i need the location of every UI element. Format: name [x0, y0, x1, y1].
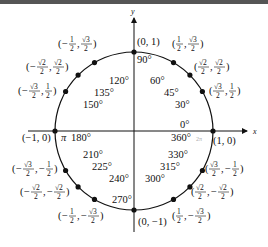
svg-text:): ) — [100, 210, 104, 222]
svg-text:√2: √2 — [196, 183, 204, 192]
svg-text:1: 1 — [70, 207, 74, 216]
svg-text:2: 2 — [212, 169, 216, 178]
angle-120: 120° — [109, 75, 129, 86]
coord-90: (0, 1) — [137, 36, 160, 48]
svg-text:,: , — [184, 210, 187, 221]
svg-text:1: 1 — [233, 160, 237, 169]
svg-text:1: 1 — [46, 82, 50, 91]
coord-210: ( − √3 2 , − 1 2 ) — [12, 160, 58, 178]
coord-315: ( √2 2 , − √2 2 ) — [191, 183, 234, 201]
svg-text:,: , — [221, 163, 224, 174]
coord-225: ( − √2 2 , − √2 2 ) — [20, 183, 70, 201]
svg-text:(: ( — [191, 186, 195, 198]
svg-text:√2: √2 — [32, 183, 40, 192]
svg-text:√3: √3 — [30, 82, 38, 91]
svg-text:2: 2 — [84, 44, 88, 53]
svg-text:1: 1 — [70, 35, 74, 44]
svg-text:,: , — [210, 61, 213, 72]
svg-text:,: , — [77, 38, 80, 49]
coord-330: ( √3 2 , − 1 2 ) — [205, 160, 244, 178]
coord-300: ( 1 2 , − √3 2 ) — [172, 207, 211, 225]
x-axis-label: x — [252, 127, 257, 136]
svg-text:−: − — [211, 186, 217, 197]
svg-text:√2: √2 — [199, 58, 207, 67]
svg-text:2: 2 — [47, 169, 51, 178]
coord-180: (−1, 0) — [22, 132, 51, 144]
svg-text:2: 2 — [57, 192, 61, 201]
svg-text:2: 2 — [56, 67, 60, 76]
angle-90: 90° — [137, 54, 152, 65]
coord-135: ( − √2 2 , √2 2 ) — [26, 58, 69, 76]
svg-text:2: 2 — [32, 91, 36, 100]
svg-text:): ) — [226, 61, 230, 73]
coord-120: ( − 1 2 , √3 2 ) — [58, 35, 97, 53]
coord-0: (1, 0) — [213, 135, 236, 147]
svg-text:,: , — [43, 186, 46, 197]
angle-60: 60° — [150, 75, 165, 86]
svg-text:−: − — [225, 163, 231, 174]
svg-text:2: 2 — [46, 91, 50, 100]
angle-0: 0° — [180, 119, 189, 130]
svg-text:,: , — [77, 210, 80, 221]
svg-text:2: 2 — [233, 169, 237, 178]
unit-circle-diagram: x y 0° 360° 2π 30° 45° 60° 90° 120° 135°… — [0, 0, 268, 247]
coord-30: ( √3 2 , 1 2 ) — [209, 82, 241, 100]
svg-text:(: ( — [209, 85, 213, 97]
svg-text:2: 2 — [216, 91, 220, 100]
svg-text:): ) — [200, 38, 204, 50]
svg-text:,: , — [35, 163, 38, 174]
svg-text:2: 2 — [70, 216, 74, 225]
angle-240: 240° — [109, 173, 129, 184]
svg-text:√3: √3 — [24, 160, 32, 169]
angle-135: 135° — [94, 87, 114, 98]
svg-text:√2: √2 — [215, 58, 223, 67]
svg-text:2: 2 — [40, 67, 44, 76]
svg-text:,: , — [41, 85, 44, 96]
svg-text:2: 2 — [91, 216, 95, 225]
svg-text:(: ( — [172, 210, 176, 222]
svg-text:√2: √2 — [38, 58, 46, 67]
svg-text:(: ( — [194, 61, 198, 73]
svg-text:,: , — [49, 61, 52, 72]
angle-30: 30° — [175, 99, 190, 110]
svg-text:√3: √3 — [210, 160, 218, 169]
svg-text:−: − — [62, 38, 68, 49]
svg-text:2: 2 — [34, 192, 38, 201]
angle-2pi: 2π — [196, 136, 202, 142]
svg-text:−: − — [39, 163, 45, 174]
svg-text:): ) — [53, 85, 57, 97]
svg-text:√2: √2 — [54, 58, 62, 67]
svg-text:2: 2 — [70, 44, 74, 53]
svg-text:): ) — [65, 61, 69, 73]
angle-315: 315° — [160, 161, 180, 172]
coord-150: ( − √3 2 , 1 2 ) — [18, 82, 57, 100]
coord-45: ( √2 2 , √2 2 ) — [194, 58, 230, 76]
angle-300: 300° — [145, 173, 165, 184]
svg-text:2: 2 — [230, 91, 234, 100]
svg-text:√2: √2 — [219, 183, 227, 192]
angle-360: 360° — [171, 132, 191, 143]
svg-text:−: − — [30, 61, 36, 72]
svg-text:2: 2 — [26, 169, 30, 178]
svg-text:2: 2 — [198, 216, 202, 225]
svg-text:): ) — [66, 186, 70, 198]
angle-330: 330° — [168, 149, 188, 160]
svg-text:,: , — [207, 186, 210, 197]
svg-text:√3: √3 — [82, 35, 90, 44]
coord-60: ( 1 2 , √3 2 ) — [172, 35, 204, 53]
svg-text:1: 1 — [177, 207, 181, 216]
angle-270: 270° — [112, 194, 132, 205]
angle-180: 180° — [71, 132, 91, 143]
svg-text:√3: √3 — [214, 82, 222, 91]
svg-text:2: 2 — [177, 216, 181, 225]
svg-text:−: − — [62, 210, 68, 221]
svg-text:−: − — [24, 186, 30, 197]
svg-text:−: − — [47, 186, 53, 197]
svg-text:2: 2 — [201, 67, 205, 76]
svg-text:): ) — [54, 163, 58, 175]
svg-text:(: ( — [205, 163, 209, 175]
svg-text:2: 2 — [198, 192, 202, 201]
svg-text:√2: √2 — [55, 183, 63, 192]
svg-text:2: 2 — [191, 44, 195, 53]
svg-text:2: 2 — [221, 192, 225, 201]
